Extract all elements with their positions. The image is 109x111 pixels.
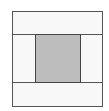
top-strip bbox=[12, 11, 103, 35]
right-cell bbox=[80, 34, 103, 83]
center-square bbox=[35, 34, 81, 83]
left-cell bbox=[12, 34, 36, 83]
bottom-strip bbox=[12, 82, 103, 107]
